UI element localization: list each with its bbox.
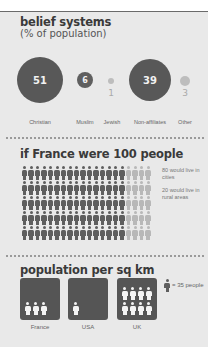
bubble-non-affiliates: 39 [129,59,171,101]
person-icon [121,287,128,300]
dotted-divider [6,137,204,139]
person-icons [72,302,104,315]
bubble-muslim: 6 [77,72,93,88]
label-non-affiliates: Non-affiliates [134,119,166,125]
bubble-other-value: 3 [182,88,188,98]
belief-systems-subtitle: (% of population) [20,28,107,39]
person-icon [24,302,31,315]
person-icon [145,181,152,195]
person-icon [145,211,152,225]
person-icon [145,287,152,300]
bubble-other [180,76,190,86]
person-icon [164,279,170,292]
person-icon [32,302,39,315]
person-icon [129,302,136,315]
bubble-value: 39 [143,75,157,86]
label-christian: Christian [29,119,51,125]
density-square-usa [68,278,108,320]
person-icon [145,196,152,210]
note-rural: 20 would live in rural areas [162,187,212,200]
belief-systems-title: belief systems [20,15,111,29]
label-usa: USA [82,324,94,330]
person-icon [137,287,144,300]
label-france: France [31,324,50,330]
bubble-jewish [108,78,114,84]
bubble-value: 51 [33,75,47,86]
person-icon [129,287,136,300]
person-icons [121,287,153,315]
label-jewish: Jewish [104,119,121,125]
person-icons [24,302,56,315]
label-uk: UK [133,324,141,330]
bubble-jewish-value: 1 [108,88,114,98]
density-square-uk [117,278,157,320]
person-icon [72,302,79,315]
label-muslim: Muslim [76,119,93,125]
france-100-title: if France were 100 people [20,147,183,161]
person-icon [145,226,152,240]
note-cities: 80 would live in cities [162,167,212,180]
legend-text: = 35 people [172,282,204,288]
person-icon [145,302,152,315]
density-square-france [20,278,60,320]
bubble-value: 6 [82,76,88,85]
dotted-divider [6,255,204,257]
density-title: population per sq km [20,263,154,277]
person-icon [145,166,152,180]
label-other: Other [178,119,192,125]
person-icon [137,302,144,315]
bubble-christian: 51 [17,57,63,103]
people-grid [21,166,151,241]
person-icon [121,302,128,315]
person-icon [40,302,47,315]
